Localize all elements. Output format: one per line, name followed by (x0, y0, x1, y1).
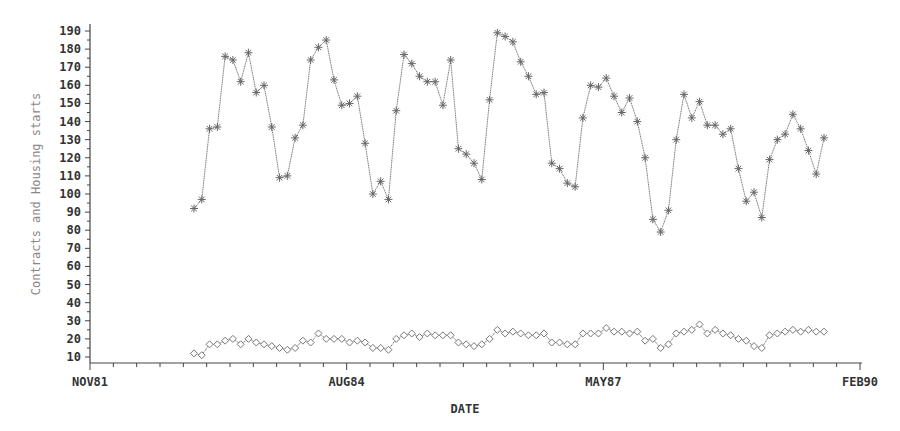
diamond-marker-icon (253, 339, 260, 346)
star-marker-icon (392, 107, 400, 115)
y-tick-label: 130 (59, 133, 81, 147)
star-marker-icon (190, 204, 198, 212)
diamond-marker-icon (424, 330, 431, 337)
star-marker-icon (571, 183, 579, 191)
star-marker-icon (213, 123, 221, 131)
star-marker-icon (462, 150, 470, 158)
star-marker-icon (742, 197, 750, 205)
star-marker-icon (439, 101, 447, 109)
diamond-marker-icon (758, 344, 765, 351)
star-marker-icon (346, 99, 354, 107)
x-axis: NOV81AUG84MAY87FEB90 (72, 363, 878, 389)
y-axis: 1020304050607080901001101201301401501601… (59, 24, 90, 364)
star-marker-icon (377, 177, 385, 185)
diamond-marker-icon (478, 341, 485, 348)
x-axis-title: DATE (451, 402, 480, 416)
star-marker-icon (244, 49, 252, 57)
diamond-marker-icon (517, 330, 524, 337)
diamond-marker-icon (377, 344, 384, 351)
diamond-marker-icon (502, 330, 509, 337)
star-marker-icon (276, 174, 284, 182)
diamond-marker-icon (261, 341, 268, 348)
star-marker-icon (812, 170, 820, 178)
star-marker-icon (400, 51, 408, 59)
star-marker-icon (237, 78, 245, 86)
y-tick-label: 10 (67, 350, 81, 364)
diamond-marker-icon (222, 337, 229, 344)
star-marker-icon (221, 52, 229, 60)
diamond-marker-icon (206, 341, 213, 348)
diamond-marker-icon (346, 339, 353, 346)
star-marker-icon (641, 154, 649, 162)
diamond-marker-icon (579, 330, 586, 337)
star-marker-icon (773, 136, 781, 144)
y-tick-label: 140 (59, 115, 81, 129)
diamond-marker-icon (712, 326, 719, 333)
diamond-marker-icon (595, 330, 602, 337)
y-axis-title: Contracts and Housing starts (29, 93, 43, 295)
star-marker-icon (338, 101, 346, 109)
star-marker-icon (408, 60, 416, 68)
diamond-marker-icon (354, 337, 361, 344)
star-marker-icon (626, 94, 634, 102)
diamond-marker-icon (331, 335, 338, 342)
star-marker-icon (416, 72, 424, 80)
star-marker-icon (486, 96, 494, 104)
diamond-marker-icon (416, 334, 423, 341)
star-marker-icon (696, 98, 704, 106)
star-marker-icon (478, 176, 486, 184)
star-marker-icon (501, 32, 509, 40)
star-marker-icon (750, 188, 758, 196)
star-marker-icon (680, 90, 688, 98)
star-marker-icon (517, 58, 525, 66)
star-marker-icon (447, 56, 455, 64)
y-tick-label: 150 (59, 96, 81, 110)
diamond-marker-icon (432, 332, 439, 339)
star-marker-icon (758, 214, 766, 222)
y-tick-label: 90 (67, 205, 81, 219)
star-marker-icon (384, 195, 392, 203)
diamond-marker-icon (525, 332, 532, 339)
y-tick-label: 100 (59, 187, 81, 201)
star-marker-icon (556, 165, 564, 173)
y-tick-label: 80 (67, 223, 81, 237)
star-marker-icon (509, 38, 517, 46)
diamond-marker-icon (401, 332, 408, 339)
star-marker-icon (283, 172, 291, 180)
diamond-marker-icon (688, 326, 695, 333)
series-contracts (191, 321, 828, 359)
diamond-marker-icon (362, 339, 369, 346)
star-marker-icon (322, 36, 330, 44)
y-tick-label: 110 (59, 169, 81, 183)
diamond-marker-icon (572, 341, 579, 348)
y-tick-label: 60 (67, 259, 81, 273)
diamond-marker-icon (626, 330, 633, 337)
line-chart: 1020304050607080901001101201301401501601… (0, 0, 900, 431)
diamond-marker-icon (315, 330, 322, 337)
star-marker-icon (493, 29, 501, 37)
diamond-marker-icon (369, 344, 376, 351)
star-marker-icon (734, 165, 742, 173)
diamond-marker-icon (782, 328, 789, 335)
diamond-marker-icon (237, 341, 244, 348)
y-tick-label: 160 (59, 78, 81, 92)
diamond-marker-icon (509, 328, 516, 335)
diamond-marker-icon (214, 341, 221, 348)
star-marker-icon (579, 114, 587, 122)
star-marker-icon (781, 130, 789, 138)
diamond-marker-icon (393, 335, 400, 342)
y-tick-label: 30 (67, 314, 81, 328)
diamond-marker-icon (323, 335, 330, 342)
star-marker-icon (789, 110, 797, 118)
diamond-marker-icon (751, 343, 758, 350)
star-marker-icon (454, 145, 462, 153)
diamond-marker-icon (556, 339, 563, 346)
diamond-marker-icon (471, 343, 478, 350)
star-marker-icon (353, 92, 361, 100)
diamond-marker-icon (564, 341, 571, 348)
y-tick-label: 20 (67, 332, 81, 346)
diamond-marker-icon (665, 341, 672, 348)
diamond-marker-icon (774, 330, 781, 337)
star-marker-icon (330, 76, 338, 84)
diamond-marker-icon (299, 337, 306, 344)
